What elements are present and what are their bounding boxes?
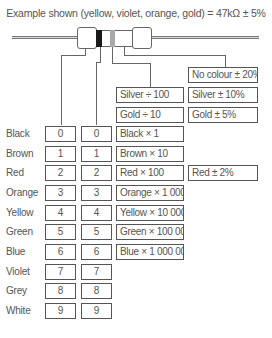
multiplier-box-yellow: Yellow × 10 000 — [116, 205, 184, 221]
multiplier-box-blue: Blue × 1 000 000 — [116, 244, 184, 260]
colour-label-orange: Orange — [6, 185, 38, 201]
leader-line — [61, 55, 62, 125]
multiplier-box-green: Green × 100 000 — [116, 224, 184, 240]
digit1-box: 1 — [45, 146, 76, 162]
digit1-box: 3 — [45, 185, 76, 201]
multiplier-box-silver: Silver ÷ 100 — [116, 87, 184, 103]
diagram-title: Example shown (yellow, violet, orange, g… — [0, 7, 272, 19]
digit2-box: 0 — [81, 126, 112, 142]
multiplier-box-brown: Brown × 10 — [116, 146, 184, 162]
right-end-cap — [132, 27, 152, 49]
leader-line — [150, 63, 151, 87]
multiplier-box-orange: Orange × 1 000 — [116, 185, 184, 201]
tolerance-box-silver: Silver ± 10% — [188, 87, 258, 103]
leader-line — [96, 62, 97, 125]
digit1-box: 0 — [45, 126, 76, 142]
digit1-box: 7 — [45, 264, 76, 280]
digit1-box: 8 — [45, 283, 76, 299]
tolerance-box-gold: Gold ± 5% — [188, 107, 258, 123]
tolerance-box-no-colour: No colour ± 20% — [188, 67, 258, 83]
digit1-box: 9 — [45, 303, 76, 319]
left-lead-wire — [12, 36, 78, 39]
digit2-box: 2 — [81, 165, 112, 181]
colour-label-green: Green — [6, 224, 33, 240]
colour-label-violet: Violet — [6, 264, 30, 280]
digit2-box: 5 — [81, 224, 112, 240]
leader-line — [112, 47, 113, 64]
tolerance-box-red: Red ± 2% — [188, 165, 258, 181]
leader-line — [225, 55, 226, 67]
colour-label-grey: Grey — [6, 283, 27, 299]
colour-label-blue: Blue — [6, 244, 25, 260]
leader-line — [112, 63, 150, 64]
digit2-box: 3 — [81, 185, 112, 201]
multiplier-band — [110, 30, 115, 47]
multiplier-box-red: Red × 100 — [116, 165, 184, 181]
digit2-box: 8 — [81, 283, 112, 299]
leader-line — [100, 47, 101, 63]
digit1-box: 6 — [45, 244, 76, 260]
right-lead-wire — [150, 36, 259, 39]
colour-label-yellow: Yellow — [6, 205, 33, 221]
colour-label-black: Black — [6, 126, 29, 142]
colour-label-white: White — [6, 303, 31, 319]
digit2-box: 1 — [81, 146, 112, 162]
colour-label-red: Red — [6, 165, 24, 181]
leader-line — [124, 55, 226, 56]
digit1-box: 5 — [45, 224, 76, 240]
digit2-box: 7 — [81, 264, 112, 280]
multiplier-box-black: Black × 1 — [116, 126, 184, 142]
first-band — [96, 30, 102, 47]
digit2-box: 6 — [81, 244, 112, 260]
multiplier-box-gold: Gold ÷ 10 — [116, 107, 184, 123]
leader-line — [61, 55, 86, 56]
left-end-cap — [77, 27, 97, 49]
digit2-box: 9 — [81, 303, 112, 319]
digit2-box: 4 — [81, 205, 112, 221]
colour-label-brown: Brown — [6, 146, 33, 162]
digit1-box: 2 — [45, 165, 76, 181]
digit1-box: 4 — [45, 205, 76, 221]
